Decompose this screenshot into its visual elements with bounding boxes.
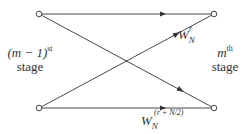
arrow-icon	[160, 12, 166, 17]
input-stage-suffix: st	[47, 44, 52, 53]
output-stage-suffix: th	[227, 44, 233, 53]
twiddle-top-sub: N	[189, 35, 195, 45]
node-output-bottom	[211, 105, 217, 111]
twiddle-bottom-sub: N	[152, 121, 158, 131]
twiddle-factor-bottom: WN(r + N/2)	[141, 113, 158, 129]
arrow-icon	[177, 86, 185, 92]
node-input-bottom	[36, 105, 42, 111]
twiddle-top-sup: r	[189, 24, 192, 33]
output-stage-word: stage	[212, 59, 239, 74]
node-input-top	[36, 11, 42, 17]
twiddle-bottom-sup: (r + N/2)	[154, 108, 183, 117]
node-output-top	[211, 11, 217, 17]
input-stage-word: stage	[17, 59, 44, 74]
twiddle-bottom-base: W	[141, 113, 152, 128]
input-stage-label: (m − 1)st stage	[4, 46, 56, 74]
output-stage-label: mth stage	[205, 46, 245, 74]
twiddle-top-base: W	[178, 27, 189, 42]
twiddle-factor-top: WNr	[178, 27, 195, 43]
